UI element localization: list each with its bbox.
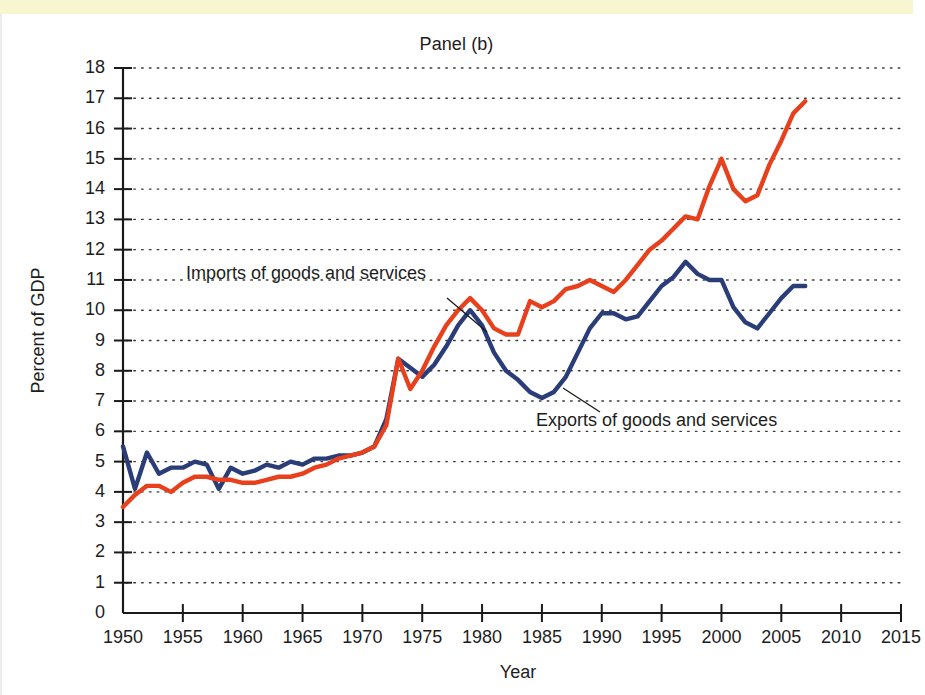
y-axis-tick-label: 5	[65, 452, 105, 470]
exports-series-annotation: Exports of goods and services	[536, 410, 777, 431]
y-axis-tick-label: 4	[65, 482, 105, 500]
y-axis-tick-label: 9	[65, 331, 105, 349]
y-axis-tick-label: 15	[65, 149, 105, 167]
y-axis-tick-label: 11	[65, 270, 105, 288]
y-axis-tick-label: 0	[65, 603, 105, 621]
y-axis-tick-label: 1	[65, 573, 105, 591]
y-axis-tick-label: 10	[65, 300, 105, 318]
axis-lines	[123, 68, 901, 613]
y-axis-tick-label: 16	[65, 119, 105, 137]
y-axis-tick-label: 7	[65, 391, 105, 409]
imports-series-annotation: Imports of goods and services	[186, 263, 426, 284]
y-axis-tick-label: 6	[65, 421, 105, 439]
x-axis-tick-label: 2015	[866, 628, 925, 646]
y-axis-tick-label: 8	[65, 361, 105, 379]
series-lines	[123, 101, 805, 507]
y-axis-tick-label: 2	[65, 542, 105, 560]
y-axis-tick-label: 3	[65, 512, 105, 530]
y-axis-tick-label: 18	[65, 58, 105, 76]
series-line-exports	[123, 262, 805, 489]
y-axis-tick-label: 14	[65, 179, 105, 197]
series-line-imports	[123, 101, 805, 507]
y-axis-tick-label: 17	[65, 88, 105, 106]
exports-leader-line	[563, 388, 600, 412]
gridlines	[126, 68, 901, 583]
y-axis-tick-label: 12	[65, 240, 105, 258]
y-axis-tick-label: 13	[65, 209, 105, 227]
